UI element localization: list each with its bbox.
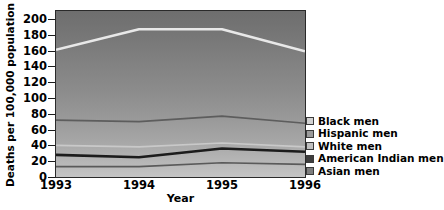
legend-item-label: American Indian men: [318, 153, 444, 164]
y-tick-label: 100: [23, 91, 47, 105]
series-line: [56, 163, 305, 167]
x-tick-label: 1995: [206, 178, 238, 192]
series-line: [56, 29, 305, 51]
y-axis-tick-marks: [48, 0, 56, 190]
legend-item: Black men: [306, 115, 428, 127]
series-line: [56, 143, 305, 147]
y-tick-mark: [48, 66, 56, 67]
y-tick-label: 40: [31, 138, 47, 152]
y-tick-mark: [48, 19, 56, 20]
y-axis-tick-labels: 020406080100120140160180200: [19, 0, 47, 190]
legend-swatch-icon: [306, 167, 314, 175]
y-tick-label: 140: [23, 59, 47, 73]
x-tick-label: 1996: [289, 178, 321, 192]
legend-item-label: Hispanic men: [318, 128, 398, 139]
y-tick-mark: [48, 145, 56, 146]
y-tick-label: 160: [23, 44, 47, 58]
y-axis-title: Deaths per 100,000 population: [0, 0, 20, 190]
y-tick-label: 200: [23, 12, 47, 26]
legend-swatch-icon: [306, 130, 314, 138]
legend-swatch-icon: [306, 142, 314, 150]
y-axis-title-text: Deaths per 100,000 population: [4, 3, 16, 187]
y-tick-mark: [48, 130, 56, 131]
legend-item: American Indian men: [306, 153, 428, 165]
legend-item: Hispanic men: [306, 128, 428, 140]
legend-item-label: White men: [318, 141, 382, 152]
series-line: [56, 116, 305, 123]
legend-item-label: Asian men: [318, 166, 380, 177]
y-tick-label: 120: [23, 75, 47, 89]
x-axis-title: Year: [56, 192, 305, 205]
y-tick-label: 80: [31, 107, 47, 121]
y-tick-label: 20: [31, 154, 47, 168]
y-tick-mark: [48, 35, 56, 36]
series-line: [56, 149, 305, 158]
plot-area: [56, 11, 305, 177]
series-lines-group: [56, 11, 305, 177]
x-tick-label: 1993: [40, 178, 72, 192]
y-tick-label: 180: [23, 28, 47, 42]
legend-item-label: Black men: [318, 116, 379, 127]
chart-legend: Black menHispanic menWhite menAmerican I…: [306, 115, 428, 178]
x-tick-label: 1994: [123, 178, 155, 192]
y-tick-mark: [48, 82, 56, 83]
legend-swatch-icon: [306, 117, 314, 125]
y-tick-mark: [48, 161, 56, 162]
y-tick-mark: [48, 98, 56, 99]
legend-item: Asian men: [306, 165, 428, 177]
legend-swatch-icon: [306, 155, 314, 163]
y-tick-label: 60: [31, 123, 47, 137]
y-tick-mark: [48, 51, 56, 52]
legend-item: White men: [306, 140, 428, 152]
y-tick-mark: [48, 114, 56, 115]
